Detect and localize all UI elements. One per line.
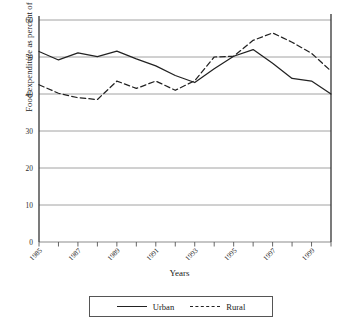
legend-item-urban: Urban [117, 302, 174, 312]
legend-swatch-rural-dashed-line-icon [190, 306, 220, 307]
x-axis-title: Years [0, 268, 359, 278]
series-line-urban [39, 50, 331, 94]
line-chart: Food expenditure as percent of income 01… [0, 0, 359, 331]
x-axis-tick-label: 1993 [184, 246, 200, 260]
legend-label-urban: Urban [153, 302, 174, 312]
x-axis-tick-label: 1989 [106, 246, 122, 260]
chart-legend: Urban Rural [89, 296, 273, 317]
y-axis-tick-label: 30 [26, 127, 34, 136]
y-axis-tick-label: 10 [26, 201, 34, 210]
x-axis-tick-label: 1999 [301, 246, 317, 260]
series-line-rural [39, 33, 331, 100]
legend-label-rural: Rural [226, 302, 245, 312]
x-axis-tick-label: 1991 [145, 246, 161, 260]
x-axis-tick-label: 1997 [262, 246, 278, 260]
y-axis-tick-label: 20 [26, 164, 34, 173]
legend-item-rural: Rural [190, 302, 245, 312]
plot-area: 0102030405060198519871989199119931995199… [0, 0, 359, 260]
y-axis-tick-label: 50 [26, 53, 34, 62]
legend-swatch-urban-solid-line-icon [117, 306, 147, 307]
x-axis-tick-label: 1995 [223, 246, 239, 260]
y-axis-tick-label: 60 [26, 16, 34, 25]
y-axis-tick-label: 0 [29, 238, 33, 247]
x-axis-tick-label: 1985 [28, 246, 44, 260]
x-axis-tick-label: 1987 [67, 246, 83, 260]
y-axis-tick-label: 40 [26, 90, 34, 99]
